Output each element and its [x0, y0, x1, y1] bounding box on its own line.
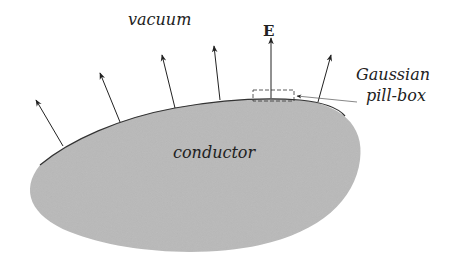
field-arrow-icon [36, 100, 63, 146]
field-label: E [263, 22, 274, 40]
field-arrow-icon [162, 55, 175, 108]
vacuum-label: vacuum [128, 10, 191, 29]
field-arrow-icon [214, 46, 220, 100]
conductor-body [30, 99, 361, 252]
pillbox-label-line1: Gaussian [356, 65, 430, 84]
field-arrow-icon [318, 55, 331, 102]
pillbox-label-line2: pill-box [366, 86, 426, 105]
conductor-label: conductor [173, 143, 255, 162]
diagram-graphics [0, 0, 456, 261]
diagram: vacuum E Gaussian pill-box conductor [0, 0, 456, 261]
field-arrow-icon [100, 73, 120, 122]
